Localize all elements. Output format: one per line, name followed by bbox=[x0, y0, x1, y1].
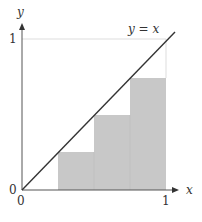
y-origin-label: 0 bbox=[9, 183, 17, 197]
riemann-sum-chart: x y 0 0 1 1 y = x bbox=[0, 0, 202, 222]
y-axis-label: y bbox=[16, 5, 24, 19]
curve-label: y = x bbox=[127, 22, 159, 36]
x-origin-label: 0 bbox=[17, 194, 25, 208]
bar-4 bbox=[130, 78, 166, 190]
y-axis-arrow-icon bbox=[19, 23, 25, 30]
bar-3 bbox=[94, 115, 130, 190]
x-axis-label: x bbox=[186, 183, 193, 197]
x-axis-arrow-icon bbox=[172, 187, 179, 193]
bar-2 bbox=[58, 152, 94, 190]
y-one-label: 1 bbox=[9, 32, 17, 46]
x-one-label: 1 bbox=[162, 194, 170, 208]
